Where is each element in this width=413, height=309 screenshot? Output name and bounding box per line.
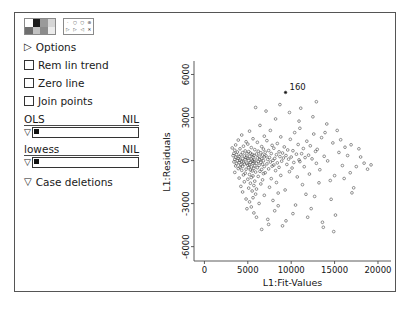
data-point[interactable] [240, 185, 243, 188]
data-point[interactable] [254, 106, 257, 109]
data-point[interactable] [294, 204, 297, 207]
triangle-down-icon[interactable]: ▽ [24, 128, 31, 137]
data-point[interactable] [258, 202, 261, 205]
data-point[interactable] [252, 196, 255, 199]
data-point[interactable] [259, 170, 262, 173]
data-point[interactable] [267, 223, 270, 226]
data-point[interactable] [254, 171, 257, 174]
data-point[interactable] [262, 159, 265, 162]
data-point[interactable] [246, 143, 249, 146]
data-point[interactable] [266, 218, 269, 221]
data-point[interactable] [237, 139, 240, 142]
data-point[interactable] [341, 164, 344, 167]
data-point[interactable] [291, 167, 294, 170]
data-point[interactable] [260, 228, 263, 231]
data-point[interactable] [288, 111, 291, 114]
palette-cell[interactable] [40, 19, 48, 27]
data-point[interactable] [265, 110, 268, 113]
data-point[interactable] [247, 187, 250, 190]
symbol-cell[interactable]: ◁ [79, 27, 86, 35]
data-point[interactable] [270, 152, 273, 155]
data-point[interactable] [272, 147, 275, 150]
data-point[interactable] [239, 166, 242, 169]
data-point[interactable] [334, 214, 337, 217]
data-point[interactable] [263, 135, 266, 138]
data-point[interactable] [233, 171, 236, 174]
data-point[interactable] [346, 154, 349, 157]
slider-track[interactable] [32, 157, 139, 168]
data-point[interactable] [239, 147, 242, 150]
data-point[interactable] [279, 136, 282, 139]
data-point[interactable] [289, 138, 292, 141]
data-point[interactable] [299, 127, 302, 130]
symbol-cell[interactable]: · [64, 19, 71, 27]
data-point[interactable] [306, 216, 309, 219]
data-point[interactable] [264, 151, 267, 154]
data-point[interactable] [359, 156, 362, 159]
data-point[interactable] [321, 221, 324, 224]
data-point[interactable] [297, 143, 300, 146]
data-point[interactable] [324, 131, 327, 134]
data-point[interactable] [276, 162, 279, 165]
data-point[interactable] [253, 180, 256, 183]
data-point[interactable] [275, 181, 278, 184]
data-point[interactable] [279, 174, 282, 177]
symbol-cell[interactable]: ✕ [86, 27, 93, 35]
data-point[interactable] [263, 194, 266, 197]
data-point[interactable] [250, 206, 253, 209]
data-point[interactable] [312, 133, 315, 136]
data-point[interactable] [266, 163, 269, 166]
slider-lowess[interactable]: lowess NIL ▽ [24, 143, 139, 168]
symbol-cell[interactable]: ○ [79, 19, 86, 27]
checkbox-icon[interactable] [24, 78, 34, 88]
palette-cell[interactable] [33, 19, 41, 27]
data-point[interactable] [358, 147, 361, 150]
data-point[interactable] [280, 160, 283, 163]
data-point[interactable] [241, 165, 244, 168]
slider-body[interactable]: ▽ [24, 157, 139, 168]
data-point[interactable] [278, 166, 281, 169]
data-point[interactable] [329, 179, 332, 182]
data-point[interactable] [285, 219, 288, 222]
data-point[interactable] [313, 195, 316, 198]
data-point[interactable] [282, 157, 285, 160]
data-point[interactable] [243, 180, 246, 183]
data-point[interactable] [307, 154, 310, 157]
slider-thumb[interactable] [34, 129, 39, 134]
data-point[interactable] [312, 115, 315, 118]
data-point[interactable] [305, 140, 308, 143]
data-point[interactable] [310, 207, 313, 210]
data-point[interactable] [266, 158, 269, 161]
plot-symbol-icon[interactable]: · ○ ○ ⊕ ▷ ▷ ◁ ✕ [63, 18, 94, 35]
checkbox-icon[interactable] [24, 96, 34, 106]
data-point[interactable] [267, 149, 270, 152]
data-point[interactable] [286, 163, 289, 166]
palette-cell[interactable] [33, 27, 41, 35]
data-point[interactable] [242, 174, 245, 177]
data-point[interactable] [338, 151, 341, 154]
data-point[interactable] [266, 139, 269, 142]
data-point[interactable] [336, 129, 339, 132]
data-point[interactable] [308, 173, 311, 176]
data-point[interactable] [286, 149, 289, 152]
data-point[interactable] [281, 152, 284, 155]
data-point[interactable] [269, 161, 272, 164]
data-point[interactable] [248, 130, 251, 133]
data-point[interactable] [332, 230, 335, 233]
data-point[interactable] [250, 176, 253, 179]
annotated-point[interactable] [284, 91, 286, 93]
data-point[interactable] [246, 153, 249, 156]
data-point[interactable] [275, 153, 278, 156]
data-point[interactable] [292, 212, 295, 215]
data-point[interactable] [267, 168, 270, 171]
data-point[interactable] [256, 166, 259, 169]
data-point[interactable] [323, 155, 326, 158]
data-point[interactable] [259, 183, 262, 186]
data-point[interactable] [268, 186, 271, 189]
data-point[interactable] [261, 179, 264, 182]
triangle-down-icon[interactable]: ▽ [24, 158, 31, 167]
data-point[interactable] [255, 216, 258, 219]
data-point[interactable] [233, 161, 236, 164]
data-point[interactable] [295, 153, 298, 156]
data-point[interactable] [253, 164, 256, 167]
